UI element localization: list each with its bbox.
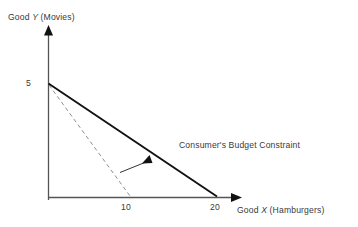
budget-constraint-chart: Good Y (Movies) 5 10 20 Good X (Hamburge… xyxy=(0,0,358,227)
x-axis-title-prefix: Good xyxy=(237,205,261,215)
x-axis-arrowhead-icon xyxy=(231,193,242,202)
x-axis-tick-label-20: 20 xyxy=(210,202,220,212)
chart-canvas xyxy=(0,0,358,227)
y-axis-arrowhead-icon xyxy=(44,25,53,36)
x-axis-title: Good X (Hamburgers) xyxy=(237,205,324,215)
dashed-budget-line xyxy=(49,85,130,196)
y-axis-title-prefix: Good xyxy=(8,12,32,22)
x-axis-title-suffix: (Hamburgers) xyxy=(267,205,324,215)
annotation-pointer-arrowhead-icon xyxy=(142,155,153,164)
y-axis-title-suffix: (Movies) xyxy=(38,12,75,22)
y-axis-title: Good Y (Movies) xyxy=(8,12,75,22)
y-axis-tick-label-5: 5 xyxy=(26,78,31,88)
budget-constraint-annotation-label: Consumer's Budget Constraint xyxy=(179,140,300,150)
annotation-pointer-line xyxy=(120,162,146,173)
x-axis-tick-label-10: 10 xyxy=(121,202,131,212)
